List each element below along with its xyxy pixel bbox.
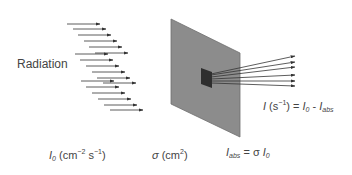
radiation-label: Radiation	[17, 57, 68, 71]
incident-flux-label: I0 (cm−2 s−1)	[49, 148, 106, 162]
absorbed-flux-label: Iabs = σ I0	[226, 146, 270, 159]
cross-section-label: σ (cm2)	[152, 148, 188, 161]
incoming-radiation-arrows	[67, 24, 143, 110]
transmitted-flux-label: I (s−1) = I0 - Iabs	[263, 99, 334, 113]
